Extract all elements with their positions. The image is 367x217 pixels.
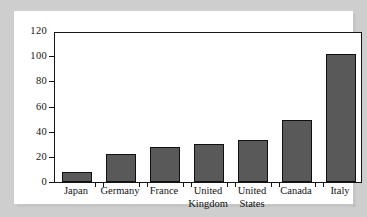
- x-axis-label-line: Italy: [318, 185, 362, 198]
- x-axis-label-line: Germany: [98, 185, 142, 198]
- y-tick-mark: [49, 81, 55, 82]
- x-axis-label-line: States: [230, 198, 274, 211]
- y-tick-mark: [49, 132, 55, 133]
- bar-united-states: [238, 140, 268, 182]
- bar-italy: [326, 54, 356, 182]
- y-tick-mark: [49, 182, 55, 183]
- x-axis-label-line: France: [142, 185, 186, 198]
- bar-canada: [282, 120, 312, 182]
- x-axis-label-line: Kingdom: [186, 198, 230, 211]
- x-axis-label-japan: Japan: [54, 185, 98, 198]
- bar-france: [150, 147, 180, 182]
- chart-page: 020406080100120 JapanGermanyFranceUnited…: [0, 0, 367, 217]
- x-axis-label-line: United: [230, 185, 274, 198]
- y-tick-label: 20: [36, 152, 47, 163]
- x-axis-label-united-kingdom: UnitedKingdom: [186, 185, 230, 210]
- x-axis-label-france: France: [142, 185, 186, 198]
- y-tick-label: 40: [36, 126, 47, 137]
- bar-germany: [106, 154, 136, 182]
- figure-card: 020406080100120 JapanGermanyFranceUnited…: [14, 11, 353, 204]
- y-tick-label: 80: [36, 76, 47, 87]
- plot-area: 020406080100120: [55, 33, 361, 182]
- x-axis-label-germany: Germany: [98, 185, 142, 198]
- y-tick-label: 0: [41, 177, 47, 188]
- y-tick-label: 60: [36, 101, 47, 112]
- y-tick-label: 100: [30, 51, 47, 62]
- y-tick-mark: [49, 157, 55, 158]
- x-axis-labels: JapanGermanyFranceUnitedKingdomUnitedSta…: [54, 185, 362, 217]
- x-axis-label-united-states: UnitedStates: [230, 185, 274, 210]
- x-axis-label-italy: Italy: [318, 185, 362, 198]
- y-tick-mark: [49, 107, 55, 108]
- plot-frame: 020406080100120: [54, 32, 362, 183]
- x-axis-label-line: United: [186, 185, 230, 198]
- x-axis-label-line: Canada: [274, 185, 318, 198]
- bar-japan: [62, 172, 92, 182]
- bar-united-kingdom: [194, 144, 224, 182]
- x-axis-label-line: Japan: [54, 185, 98, 198]
- y-tick-mark: [49, 56, 55, 57]
- x-axis-label-canada: Canada: [274, 185, 318, 198]
- y-tick-label: 120: [30, 26, 47, 37]
